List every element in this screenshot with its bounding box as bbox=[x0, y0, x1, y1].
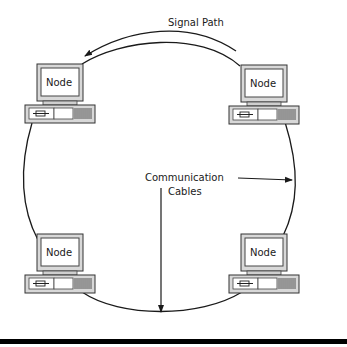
signal-path-label: Signal Path bbox=[168, 17, 224, 28]
cables-label: Cables bbox=[168, 186, 202, 197]
node-top-right[interactable]: Node bbox=[229, 65, 299, 124]
node-label: Node bbox=[46, 247, 72, 258]
node-bottom-right[interactable]: Node bbox=[229, 234, 299, 293]
cable-arrow-right bbox=[238, 178, 292, 180]
node-label: Node bbox=[46, 77, 72, 88]
node-top-left[interactable]: Node bbox=[25, 64, 95, 123]
node-label: Node bbox=[250, 247, 276, 258]
ring-network-diagram: Signal Path Communication Cables Node No… bbox=[0, 0, 347, 347]
node-bottom-left[interactable]: Node bbox=[25, 234, 95, 293]
node-label: Node bbox=[250, 78, 276, 89]
communication-label: Communication bbox=[145, 172, 224, 183]
bottom-rule bbox=[0, 339, 347, 344]
